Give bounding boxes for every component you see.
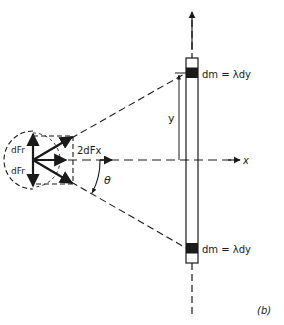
panel-label: (b) [257,305,271,316]
y-dimension [175,73,186,160]
label-dFr-bottom: dFr [11,166,25,176]
label-x: x [242,155,249,166]
force-diagram: dm = λdy dm = λdy y x θ dFr dFr 2dFx (b) [0,0,284,325]
theta-arc [92,160,100,193]
label-dm-bottom: dm = λdy [202,244,251,255]
mass-element-top [186,68,198,78]
label-y: y [168,112,175,125]
label-dm-top: dm = λdy [202,69,251,80]
label-2dFx: 2dFx [77,145,101,156]
dF-lower-arrow [33,160,72,183]
label-dFr-top: dFr [11,145,25,155]
label-theta: θ [104,174,111,187]
dF-upper-arrow [33,137,72,160]
mass-element-bottom [186,243,198,253]
